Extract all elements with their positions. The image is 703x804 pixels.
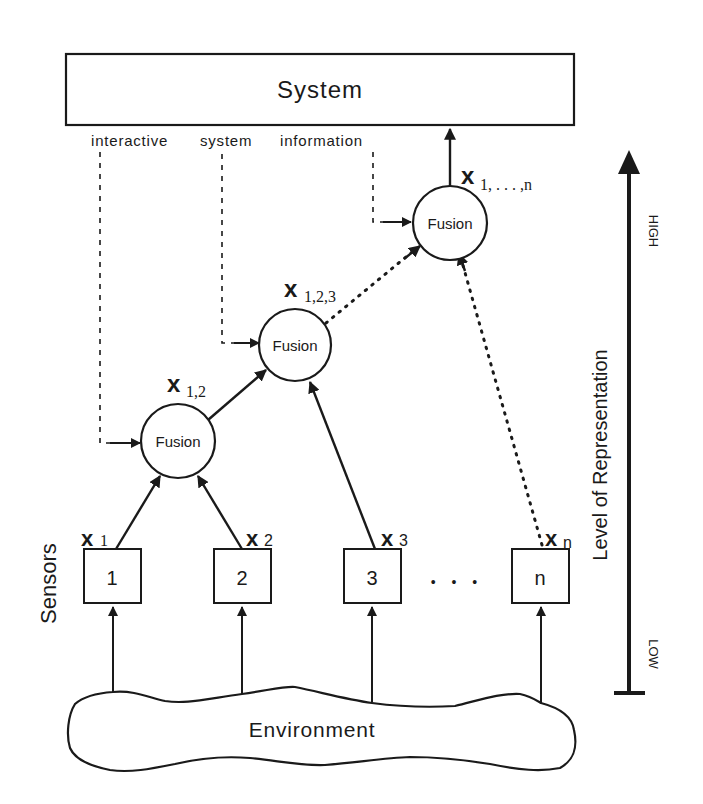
var-x123-sub: 1,2,3 (304, 288, 336, 305)
sensor-3-label: 3 (366, 567, 377, 589)
var-x1: x (81, 526, 94, 551)
var-x1-sub: 1 (100, 532, 108, 549)
edge-sensor3-fusion2 (310, 382, 375, 549)
sensor-outputs: x 1 x 2 x 3 x n (81, 526, 572, 551)
var-xn: x (545, 526, 558, 551)
edge-fusion2-fusion3 (326, 252, 412, 323)
feedback-word-interactive: interactive (91, 132, 168, 149)
fusion-1-label: Fusion (155, 433, 200, 450)
axis-arrowhead-icon (618, 150, 640, 174)
fusion-diagram: System interactive system information Fu… (0, 0, 703, 804)
feedback-word-system: system (200, 132, 252, 149)
feedback-line-fusion-1 (100, 152, 112, 443)
fusion-2-label: Fusion (272, 337, 317, 354)
sensor-2-label: 2 (236, 567, 247, 589)
edge-sensor1-fusion1 (116, 476, 160, 549)
edge-sensorn-fusion3 (462, 262, 542, 545)
axis-high-label: HIGH (646, 215, 661, 248)
axis-label: Level of Representation (589, 349, 611, 560)
feedback-lines (100, 152, 384, 443)
sensor-ellipsis: • • • (431, 574, 483, 590)
fusion-3-label: Fusion (427, 215, 472, 232)
sensor-2: 2 (214, 549, 271, 603)
fusion-node-2: Fusion (259, 309, 331, 381)
var-x2-sub: 2 (264, 532, 273, 549)
representation-axis: Level of Representation HIGH LOW (589, 150, 661, 693)
feedback-label: interactive system information (91, 132, 363, 149)
var-x12: x (167, 370, 181, 397)
environment-label: Environment (249, 718, 376, 741)
dotted-edges (326, 252, 542, 545)
sensor-n: n (512, 549, 569, 603)
sensors-label: Sensors (36, 543, 61, 624)
axis-low-label: LOW (646, 639, 661, 669)
edge-fusion1-fusion2 (208, 370, 266, 420)
system-box: System (66, 54, 574, 125)
var-x2: x (246, 526, 259, 551)
sensor-n-label: n (534, 567, 545, 589)
sensor-1: 1 (84, 549, 141, 603)
system-label: System (277, 76, 363, 103)
var-xn-sub: n (563, 534, 572, 551)
feedback-line-fusion-2 (222, 154, 236, 343)
sensor-3: 3 (344, 549, 401, 603)
sensor-1-label: 1 (106, 567, 117, 589)
environment-edges (113, 607, 541, 703)
fusion-node-1: Fusion (141, 404, 215, 478)
feedback-line-fusion-3 (373, 152, 384, 222)
var-x123: x (284, 275, 298, 302)
var-x12-sub: 1,2 (186, 383, 206, 400)
edge-sensor2-fusion1 (198, 476, 242, 549)
fusion-node-3: Fusion (413, 186, 487, 260)
environment-cloud: Environment (68, 687, 576, 771)
var-x1n-sub: 1, . . . ,n (480, 176, 532, 193)
var-x3: x (381, 526, 394, 551)
feedback-word-information: information (280, 132, 363, 149)
var-x3-sub: 3 (399, 532, 408, 549)
var-x1n: x (461, 162, 475, 189)
